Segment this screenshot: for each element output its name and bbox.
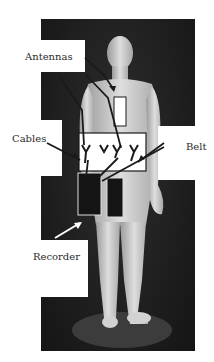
antenna-arrow-1 [85, 58, 114, 90]
recorder-box-2 [107, 178, 123, 217]
chest-antenna-box [114, 97, 126, 126]
annotation-layer [0, 0, 214, 362]
belt-box [79, 133, 146, 171]
recorder-box-1 [78, 173, 101, 215]
